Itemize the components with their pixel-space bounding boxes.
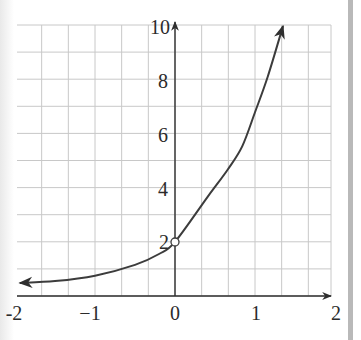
exponential-curve (20, 26, 283, 283)
y-tick-label-8: 8 (158, 71, 168, 91)
y-tick-label-4: 4 (158, 179, 168, 199)
y-tick-label-6: 6 (158, 125, 168, 145)
exponential-graph: 10 8 6 4 2 -2 −1 0 1 2 (0, 0, 361, 340)
open-circle-point (171, 238, 179, 246)
x-tick-label-neg1: −1 (79, 303, 100, 323)
plot-area (0, 0, 361, 340)
x-tick-label-0: 0 (170, 303, 180, 323)
y-tick-label-10: 10 (150, 17, 170, 37)
page-gutter-bar (348, 0, 353, 340)
y-tick-label-2: 2 (159, 232, 169, 252)
grid-lines (17, 25, 331, 296)
x-tick-label-2: 2 (331, 303, 341, 323)
x-tick-label-neg2: -2 (6, 303, 23, 323)
x-tick-label-1: 1 (251, 303, 261, 323)
